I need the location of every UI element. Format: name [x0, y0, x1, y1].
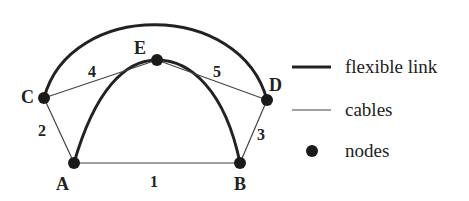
- cable-label-5: 5: [213, 63, 221, 80]
- cable-label-1: 1: [150, 173, 158, 190]
- network-diagram: A B C D E 1 2 3 4 5 flexible link cables…: [0, 0, 469, 201]
- legend-node-swatch: [306, 145, 318, 157]
- node-b: [234, 157, 246, 169]
- legend-flexible-link-label: flexible link: [345, 56, 438, 77]
- node-c: [38, 92, 50, 104]
- cable-label-3: 3: [257, 126, 265, 143]
- legend-cables-label: cables: [345, 99, 392, 120]
- node-label-b: B: [234, 174, 246, 194]
- node-label-c: C: [21, 87, 34, 107]
- legend-nodes-label: nodes: [345, 140, 389, 161]
- node-label-a: A: [56, 174, 69, 194]
- cable-2: [44, 98, 74, 163]
- node-a: [68, 157, 80, 169]
- node-d: [261, 94, 273, 106]
- node-e: [151, 54, 163, 66]
- cable-label-2: 2: [38, 122, 46, 139]
- cable-label-4: 4: [88, 63, 96, 80]
- node-label-e: E: [134, 38, 146, 58]
- node-label-d: D: [269, 75, 282, 95]
